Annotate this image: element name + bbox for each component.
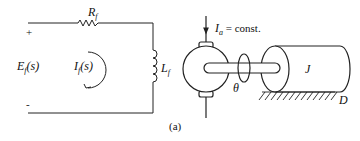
angle-label: θ	[233, 81, 239, 95]
loop-arrowhead	[84, 84, 91, 88]
damping-label: D	[338, 93, 348, 107]
figure-caption: (a)	[169, 120, 182, 133]
minus-sign: -	[26, 98, 30, 110]
inertia-label: J	[305, 62, 311, 76]
motor-assembly	[183, 16, 350, 118]
motor-shaft	[204, 63, 280, 73]
armature-current-label: Ia = const.	[214, 21, 261, 37]
plus-sign: +	[26, 26, 32, 38]
source-voltage-label: Ef(s)	[16, 59, 39, 75]
armature-arrow-icon	[204, 28, 208, 33]
field-current-label: If(s)	[73, 59, 93, 75]
inductor-label: Lf	[160, 61, 172, 77]
dc-motor-diagram: Rf Lf + - Ef(s) If(s)	[0, 0, 360, 141]
inductor-symbol	[153, 50, 157, 82]
resistor-label: Rf	[87, 5, 99, 21]
damping-ground	[259, 92, 337, 100]
